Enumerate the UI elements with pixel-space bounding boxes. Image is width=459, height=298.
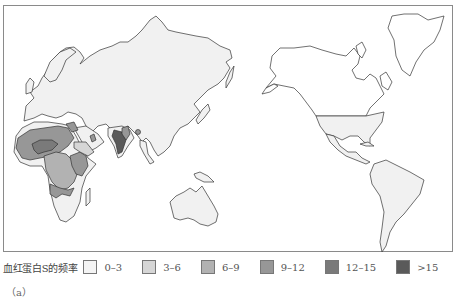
legend-label: 12–15 bbox=[346, 262, 376, 273]
south-america bbox=[370, 160, 424, 252]
legend-label: 3–6 bbox=[163, 262, 181, 273]
madagascar bbox=[86, 188, 90, 206]
legend-title: 血红蛋白S的频率 bbox=[3, 260, 77, 275]
united-states bbox=[316, 112, 384, 146]
legend-item-0-3: 0–3 bbox=[83, 260, 122, 274]
greenland bbox=[388, 14, 444, 76]
legend-item-6-9: 6–9 bbox=[201, 260, 240, 274]
australia bbox=[170, 186, 218, 226]
legend-label: 9–12 bbox=[281, 262, 305, 273]
legend-swatch bbox=[83, 260, 97, 274]
legend-label: 0–3 bbox=[104, 262, 122, 273]
legend-item-9-12: 9–12 bbox=[260, 260, 305, 274]
legend-item-gt15: >15 bbox=[396, 260, 438, 274]
legend-swatch bbox=[260, 260, 274, 274]
new-guinea bbox=[194, 172, 214, 182]
world-map bbox=[4, 6, 454, 253]
legend-swatch bbox=[396, 260, 410, 274]
legend-swatch bbox=[325, 260, 339, 274]
legend-item-3-6: 3–6 bbox=[142, 260, 181, 274]
legend-label: >15 bbox=[417, 262, 438, 273]
legend-swatch bbox=[142, 260, 156, 274]
legend-swatch bbox=[201, 260, 215, 274]
map-frame bbox=[3, 5, 453, 252]
hudson-east bbox=[380, 72, 392, 90]
north-america bbox=[266, 46, 384, 116]
region-burma-spot bbox=[136, 130, 141, 135]
cuba bbox=[360, 142, 374, 146]
legend-item-12-15: 12–15 bbox=[325, 260, 376, 274]
legend-label: 6–9 bbox=[222, 262, 240, 273]
figure-caption: （a） bbox=[6, 284, 32, 298]
legend: 血红蛋白S的频率 0–3 3–6 6–9 9–12 12–15 >15 bbox=[3, 258, 458, 276]
